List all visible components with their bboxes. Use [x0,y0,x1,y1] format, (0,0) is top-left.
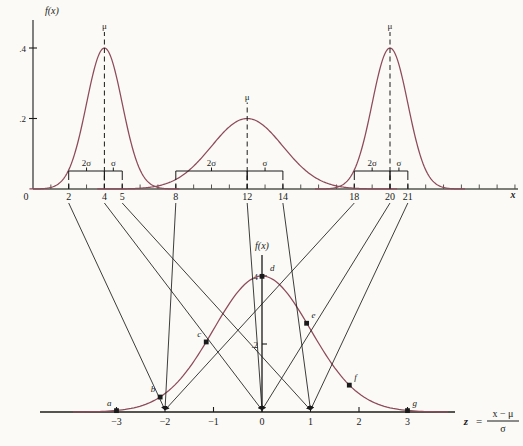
normal-distribution-z-transform-diagram: f(x)x0.2.424581214182021μμμ2σσ2σσ2σσf(x)… [0,0,523,446]
top-bracket-label-right-one-sigma: σ [396,158,401,168]
mapping-line-map-4-to-0 [104,203,262,410]
top-mu-label-middle-normal: μ [245,92,250,102]
bottom-z-tick-label-2: −1 [208,416,219,427]
bottom-z-tick-label-0: −3 [111,416,122,427]
top-mu-label-left-normal: μ [102,21,107,31]
z-formula-denominator: σ [500,423,506,434]
top-x-tick-label-2: 2 [66,191,71,202]
top-bracket-label-middle-one-sigma: σ [263,158,268,168]
mapping-line-map-21-to-1 [311,203,408,410]
top-x-tick-label-4: 4 [102,191,107,202]
bottom-point-label-c: c [197,329,201,339]
mapping-line-map-8-to-minus2 [165,203,176,410]
top-mu-label-right-normal: μ [388,21,393,31]
top-bracket-label-right-two-sigma: 2σ [367,158,377,168]
top-x-tick-label-20: 20 [385,191,395,202]
top-bracket-left-two-sigma [69,171,105,180]
bottom-point-label-a: a [107,398,112,408]
top-x-tick-label-21: 21 [403,191,413,202]
bottom-z-tick-label-6: 3 [405,416,410,427]
top-bracket-label-middle-two-sigma: 2σ [207,158,217,168]
top-x-tick-label-18: 18 [349,191,359,202]
bottom-point-d [260,274,265,279]
bottom-y-axis-label: f(x) [255,240,270,252]
top-x-tick-label-12: 12 [242,191,252,202]
bottom-z-tick-label-3: 0 [260,416,265,427]
top-x-tick-label-14: 14 [278,191,288,202]
top-x-tick-label-8: 8 [173,191,178,202]
z-formula-equals: = [476,415,482,427]
mapping-line-map-14-to-1 [283,203,311,410]
top-x-axis-label: x [510,189,516,200]
bottom-z-tick-label-5: 2 [357,416,362,427]
top-bracket-label-left-one-sigma: σ [111,158,116,168]
bottom-z-tick-label-1: −2 [160,416,171,427]
figure-canvas: f(x)x0.2.424581214182021μμμ2σσ2σσ2σσf(x)… [0,0,523,446]
bottom-point-e [304,321,309,326]
z-formula-numerator: x − μ [492,408,513,419]
bottom-point-label-d: d [270,263,275,273]
top-bracket-middle-one-sigma [247,171,283,180]
bottom-z-tick-label-4: 1 [308,416,313,427]
bottom-point-f [347,383,352,388]
top-y-tick-label-1: .4 [19,44,26,54]
top-bracket-label-left-two-sigma: 2σ [82,158,92,168]
top-bracket-right-one-sigma [390,171,408,180]
top-bracket-left-one-sigma [104,171,122,180]
bottom-point-a [114,408,119,413]
bottom-point-g [405,408,410,413]
top-y-axis-label: f(x) [45,5,60,17]
top-bracket-right-two-sigma [354,171,390,180]
bottom-point-label-g: g [413,398,418,408]
top-x-tick-label-5: 5 [120,191,125,202]
top-y-tick-label-0: .2 [19,114,26,124]
bottom-point-c [204,340,209,345]
z-formula-symbol: z [463,415,469,427]
bottom-point-label-f: f [354,372,358,382]
top-x-origin-label: 0 [24,191,29,202]
bottom-point-label-e: e [312,310,316,320]
